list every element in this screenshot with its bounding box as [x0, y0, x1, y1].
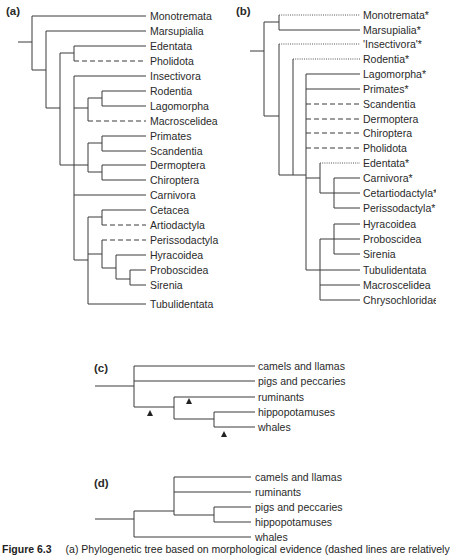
taxon-label: Scandentia — [150, 145, 203, 157]
figure-number: Figure 6.3 — [2, 543, 52, 555]
taxon-label: pigs and peccaries — [258, 375, 346, 387]
taxon-label: Tubulidentata — [363, 264, 426, 276]
taxon-label: Chiroptera — [150, 174, 199, 186]
taxon-label: whales — [257, 421, 291, 433]
tree-panel-c: (c) camels and llamas pigs and peccaries… — [94, 360, 346, 438]
triangle-marker-icon — [186, 398, 192, 404]
taxon-label: Primates — [150, 130, 191, 142]
taxon-label: 'Insectivora'* — [363, 38, 422, 50]
taxon-label: Lagomorpha* — [363, 68, 426, 80]
taxon-label: Perissodactyla* — [363, 202, 435, 214]
panel-label-b: (b) — [236, 5, 251, 17]
caption-text: (a) Phylogenetic tree based on morpholog… — [66, 543, 450, 555]
panel-label-d: (d) — [94, 477, 109, 489]
taxon-label: Artiodactyla — [150, 219, 205, 231]
taxon-label: Monotremata* — [363, 9, 429, 21]
taxon-label: Cetartiodactyla* — [363, 187, 436, 199]
taxon-label: Dermoptera — [363, 113, 419, 125]
taxa-labels-b: Monotremata* Marsupialia* 'Insectivora'*… — [363, 9, 436, 306]
taxa-labels-a: Monotremata Marsupialia Edentata Pholido… — [150, 10, 218, 310]
taxon-label: Edentata — [150, 40, 192, 52]
taxon-label: camels and llamas — [255, 471, 342, 483]
taxon-label: Monotremata — [150, 10, 212, 22]
taxon-label: Sirenia — [150, 279, 183, 291]
taxon-label: Proboscidea — [363, 233, 422, 245]
taxon-label: Marsupialia — [150, 25, 204, 37]
tree-panel-b: (b) — [236, 5, 436, 306]
taxon-label: whales — [254, 531, 288, 543]
taxon-label: Hyracoidea — [150, 249, 203, 261]
triangle-marker-icon — [221, 431, 227, 437]
tree-panel-a: (a) — [6, 5, 218, 310]
taxon-label: Insectivora — [150, 70, 201, 82]
panel-label-a: (a) — [6, 5, 20, 17]
taxa-labels-d: camels and llamas ruminants pigs and pec… — [254, 471, 343, 543]
figure-caption: Figure 6.3(a) Phylogenetic tree based on… — [2, 543, 450, 555]
taxon-label: Scandentia — [363, 98, 416, 110]
taxon-label: Rodentia — [150, 85, 192, 97]
taxon-label: Carnivora* — [363, 172, 413, 184]
taxon-label: Marsupialia* — [363, 24, 421, 36]
taxon-label: pigs and peccaries — [255, 501, 343, 513]
taxon-label: camels and llamas — [258, 360, 345, 372]
taxon-label: Lagomorpha — [150, 100, 209, 112]
taxon-label: Chiroptera — [363, 127, 412, 139]
taxon-label: Rodentia* — [363, 53, 409, 65]
taxon-label: Hyracoidea — [363, 218, 416, 230]
taxon-label: Chrysochloridae — [363, 294, 436, 306]
taxon-label: Macroscelidea — [363, 279, 431, 291]
tree-panel-d: (d) camels and llamas ruminants pigs and… — [94, 471, 343, 543]
taxon-label: Pholidota — [363, 142, 407, 154]
taxon-label: Carnivora — [150, 189, 196, 201]
taxon-label: Sirenia — [363, 248, 396, 260]
taxon-label: Pholidota — [150, 55, 194, 67]
taxon-label: Tubulidentata — [150, 298, 213, 310]
taxon-label: Proboscidea — [150, 264, 209, 276]
taxon-label: Dermoptera — [150, 159, 206, 171]
taxon-label: Cetacea — [150, 204, 189, 216]
taxon-label: Macroscelidea — [150, 115, 218, 127]
taxon-label: ruminants — [255, 486, 301, 498]
panel-label-c: (c) — [94, 362, 108, 374]
taxa-labels-c: camels and llamas pigs and peccaries rum… — [257, 360, 346, 433]
taxon-label: Edentata* — [363, 157, 409, 169]
taxon-label: hippopotamuses — [255, 516, 332, 528]
taxon-label: hippopotamuses — [258, 406, 335, 418]
taxon-label: Primates* — [363, 83, 409, 95]
triangle-marker-icon — [147, 410, 153, 416]
taxon-label: ruminants — [258, 391, 304, 403]
taxon-label: Perissodactyla — [150, 234, 218, 246]
